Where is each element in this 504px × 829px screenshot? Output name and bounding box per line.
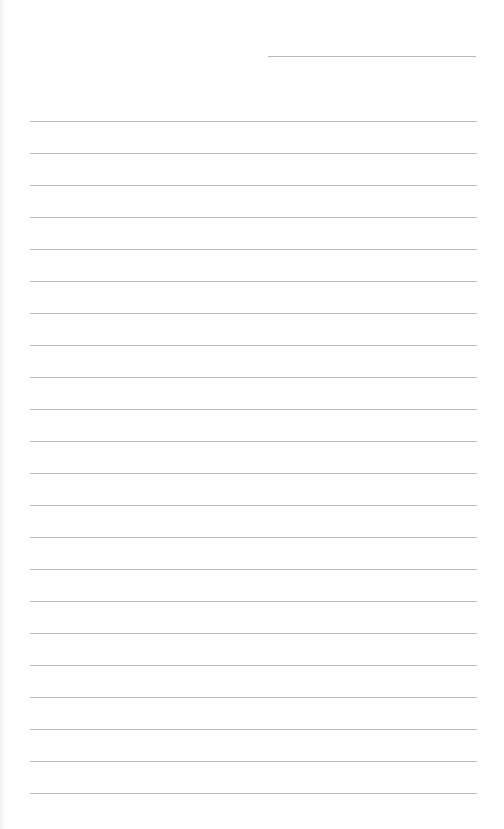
ruled-line — [30, 377, 477, 378]
ruled-line — [30, 249, 477, 250]
ruled-line — [30, 121, 477, 122]
ruled-line — [30, 665, 477, 666]
ruled-line — [30, 505, 477, 506]
ruled-line — [30, 217, 477, 218]
ruled-line — [30, 441, 477, 442]
ruled-line — [30, 473, 477, 474]
ruled-lines — [0, 0, 504, 829]
ruled-line — [30, 793, 477, 794]
ruled-line — [30, 697, 477, 698]
ruled-line — [30, 633, 477, 634]
ruled-line — [30, 601, 477, 602]
ruled-line — [30, 313, 477, 314]
ruled-line — [30, 761, 477, 762]
ruled-line — [30, 185, 477, 186]
ruled-line — [30, 569, 477, 570]
ruled-line — [30, 729, 477, 730]
ruled-line — [30, 345, 477, 346]
ruled-line — [30, 409, 477, 410]
ruled-line — [30, 153, 477, 154]
ruled-line — [30, 537, 477, 538]
ruled-line — [30, 281, 477, 282]
